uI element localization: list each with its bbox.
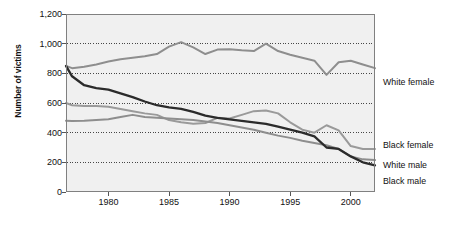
legend-label-white-male: White male xyxy=(383,160,427,170)
x-tick-label: 1980 xyxy=(98,197,118,207)
plot-area xyxy=(0,0,465,229)
legend-label-white-female: White female xyxy=(383,77,434,87)
chart-container: Number of victims 02004006008001,0001,20… xyxy=(0,0,465,229)
x-tick-label: 2000 xyxy=(341,197,361,207)
x-tick-label: 1985 xyxy=(159,197,179,207)
x-tick-label: 1990 xyxy=(220,197,240,207)
legend-label-black-male: Black male xyxy=(383,176,426,186)
x-tick-label: 1995 xyxy=(280,197,300,207)
legend-label-black-female: Black female xyxy=(383,140,433,150)
